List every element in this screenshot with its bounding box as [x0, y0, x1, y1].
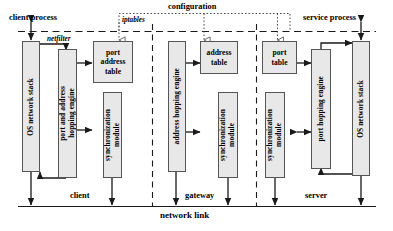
client-process-label: client process: [9, 13, 57, 22]
client-port-address-table-label: port address table: [101, 48, 126, 76]
gateway-sync-module-label: synchronization module: [219, 109, 236, 161]
server-sync-module-label: synchronization module: [266, 109, 283, 161]
configuration-label: configuration: [168, 2, 216, 11]
client-os-network-stack-label: OS network stack: [27, 78, 36, 136]
client-hopping-engine-label: port and address hopping engine: [59, 86, 76, 141]
gateway-address-table-box: address table: [200, 41, 238, 74]
server-os-network-stack-label: OS network stack: [357, 80, 366, 138]
client-port-address-table-box: port address table: [93, 41, 133, 83]
server-port-table-box: port table: [262, 41, 297, 74]
netfilter-label: netfilter: [47, 35, 71, 43]
client-sync-module-box: synchronization module: [103, 92, 122, 178]
iptables-label: iptables: [122, 16, 145, 24]
network-link-label: network link: [160, 210, 209, 220]
gateway-hopping-engine-box: address hopping engine: [168, 41, 186, 172]
service-process-label: service process: [303, 13, 356, 22]
client-hopping-engine-box: port and address hopping engine: [58, 49, 77, 178]
server-hopping-engine-box: port hopping engine: [311, 49, 331, 169]
network-architecture-diagram: client process service process configura…: [0, 0, 393, 231]
client-zone-label: client: [70, 191, 90, 200]
server-zone-label: server: [305, 191, 327, 200]
client-os-network-stack-box: OS network stack: [22, 41, 40, 172]
server-sync-module-box: synchronization module: [265, 92, 285, 178]
gateway-zone-label: gateway: [185, 191, 214, 200]
server-os-network-stack-box: OS network stack: [352, 41, 370, 176]
gateway-sync-module-box: synchronization module: [218, 92, 238, 178]
gateway-hopping-engine-label: address hopping engine: [173, 68, 182, 144]
gateway-address-table-label: address table: [207, 48, 232, 67]
server-hopping-engine-label: port hopping engine: [317, 76, 326, 142]
client-sync-module-label: synchronization module: [104, 109, 121, 161]
server-port-table-label: port table: [271, 48, 287, 67]
